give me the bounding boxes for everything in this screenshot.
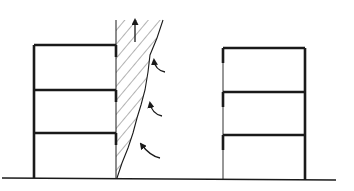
left-building-frame xyxy=(34,45,116,178)
ground-line xyxy=(2,178,336,180)
hatched-wedge xyxy=(116,20,163,178)
building-flow-diagram xyxy=(0,0,354,191)
diagram-canvas xyxy=(0,0,354,191)
curved-arrow-icon xyxy=(150,103,162,116)
right-building-frame xyxy=(223,48,305,180)
ground-line xyxy=(2,178,336,180)
curved-arrow-icon xyxy=(154,60,165,72)
wedge-hatch-fill xyxy=(116,20,163,178)
curved-arrow-icon xyxy=(141,144,160,158)
